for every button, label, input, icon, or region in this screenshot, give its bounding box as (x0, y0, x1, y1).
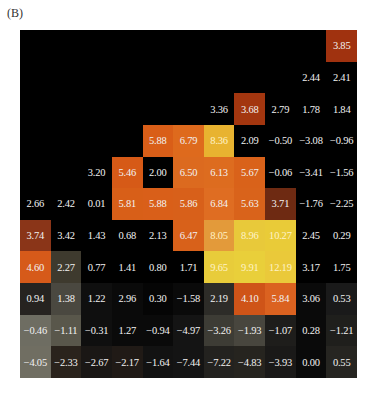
heatmap-cell (112, 30, 143, 62)
heatmap-grid: 3.852.442.413.363.682.791.781.845.886.79… (20, 30, 357, 378)
heatmap-cell (204, 30, 235, 62)
heatmap-cell: −4.97 (173, 315, 204, 347)
heatmap-cell (143, 62, 174, 94)
heatmap-cell: 4.10 (234, 283, 265, 315)
heatmap-cell: 3.06 (296, 283, 327, 315)
heatmap-cell: 3.36 (204, 93, 235, 125)
heatmap-cell: 10.27 (265, 220, 296, 252)
heatmap-cell: −0.96 (326, 125, 357, 157)
heatmap-cell: 1.71 (173, 251, 204, 283)
heatmap-cell: 1.27 (112, 315, 143, 347)
heatmap-cell (204, 62, 235, 94)
heatmap-cell: 2.19 (204, 283, 235, 315)
heatmap-cell: −1.21 (326, 315, 357, 347)
heatmap-cell: −3.26 (204, 315, 235, 347)
heatmap-cell: −3.41 (296, 157, 327, 189)
heatmap-cell (20, 93, 51, 125)
heatmap-cell: −2.25 (326, 188, 357, 220)
heatmap-cell: −1.76 (296, 188, 327, 220)
heatmap-cell: 1.43 (81, 220, 112, 252)
heatmap-cell: 0.68 (112, 220, 143, 252)
heatmap-cell: 0.30 (143, 283, 174, 315)
heatmap-cell: 1.75 (326, 251, 357, 283)
heatmap-cell (51, 62, 82, 94)
heatmap-cell: 0.55 (326, 346, 357, 378)
heatmap-cell: 0.01 (81, 188, 112, 220)
heatmap-cell: 8.36 (204, 125, 235, 157)
heatmap-cell: −3.93 (265, 346, 296, 378)
heatmap-cell (112, 93, 143, 125)
heatmap-cell: 5.67 (234, 157, 265, 189)
heatmap-cell (265, 30, 296, 62)
heatmap-cell (20, 125, 51, 157)
heatmap-cell: 2.96 (112, 283, 143, 315)
heatmap-cell: 3.17 (296, 251, 327, 283)
heatmap-cell: 2.44 (296, 62, 327, 94)
heatmap-cell: −0.94 (143, 315, 174, 347)
heatmap-cell (296, 30, 327, 62)
heatmap-cell: 2.00 (143, 157, 174, 189)
heatmap-cell: −1.11 (51, 315, 82, 347)
heatmap-cell (51, 157, 82, 189)
heatmap-cell: 12.19 (265, 251, 296, 283)
heatmap-cell: 3.42 (51, 220, 82, 252)
heatmap-cell (234, 62, 265, 94)
heatmap-cell (112, 62, 143, 94)
heatmap-cell: 0.00 (296, 346, 327, 378)
heatmap-cell: −0.46 (20, 315, 51, 347)
heatmap-cell: −0.06 (265, 157, 296, 189)
heatmap-cell: 1.22 (81, 283, 112, 315)
heatmap-cell (81, 93, 112, 125)
heatmap-cell: 0.94 (20, 283, 51, 315)
heatmap-cell (143, 30, 174, 62)
heatmap-cell: −4.05 (20, 346, 51, 378)
heatmap-cell: 5.46 (112, 157, 143, 189)
heatmap-cell: 2.27 (51, 251, 82, 283)
heatmap-cell: 0.80 (143, 251, 174, 283)
heatmap-cell (173, 30, 204, 62)
heatmap-cell: 2.79 (265, 93, 296, 125)
heatmap-cell: 0.53 (326, 283, 357, 315)
heatmap-cell: 4.60 (20, 251, 51, 283)
heatmap-cell: 1.41 (112, 251, 143, 283)
heatmap-cell: 5.84 (265, 283, 296, 315)
heatmap-cell (20, 62, 51, 94)
heatmap-cell: 0.28 (296, 315, 327, 347)
heatmap-cell (112, 125, 143, 157)
heatmap-cell: 2.09 (234, 125, 265, 157)
heatmap-cell: 3.20 (81, 157, 112, 189)
heatmap-cell: 2.45 (296, 220, 327, 252)
heatmap-cell: 0.77 (81, 251, 112, 283)
heatmap-cell: 8.05 (204, 220, 235, 252)
heatmap-cell: −3.08 (296, 125, 327, 157)
heatmap-cell: 9.91 (234, 251, 265, 283)
heatmap-cell: −1.93 (234, 315, 265, 347)
heatmap-cell (143, 93, 174, 125)
heatmap-cell (234, 30, 265, 62)
heatmap-cell: 6.84 (204, 188, 235, 220)
heatmap-cell: 5.88 (143, 125, 174, 157)
heatmap-cell: 2.42 (51, 188, 82, 220)
heatmap-cell: 6.47 (173, 220, 204, 252)
heatmap-cell: 9.65 (204, 251, 235, 283)
heatmap-cell: −1.07 (265, 315, 296, 347)
heatmap-cell: 8.96 (234, 220, 265, 252)
heatmap-cell: 5.88 (143, 188, 174, 220)
heatmap-cell (81, 30, 112, 62)
panel-label: (B) (7, 6, 23, 21)
heatmap-cell: −2.33 (51, 346, 82, 378)
heatmap-cell (20, 30, 51, 62)
heatmap-cell: 6.79 (173, 125, 204, 157)
heatmap-cell: 5.63 (234, 188, 265, 220)
heatmap-cell: 0.29 (326, 220, 357, 252)
heatmap-cell: −1.64 (143, 346, 174, 378)
heatmap-cell (20, 157, 51, 189)
heatmap-cell: 2.66 (20, 188, 51, 220)
heatmap-cell (51, 93, 82, 125)
heatmap-cell: 3.85 (326, 30, 357, 62)
heatmap-cell: 3.74 (20, 220, 51, 252)
heatmap-cell: −7.44 (173, 346, 204, 378)
heatmap-cell (173, 62, 204, 94)
heatmap-cell: 2.13 (143, 220, 174, 252)
heatmap-cell: −2.67 (81, 346, 112, 378)
